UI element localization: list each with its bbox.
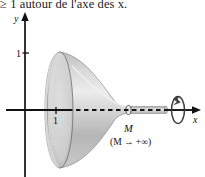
point-label-m: M — [124, 123, 133, 134]
y-axis-tick-label-1: 1 — [16, 48, 21, 59]
figure-canvas — [0, 0, 205, 177]
figure-gabriels-horn: ≥ 1 autour de l'axe des x. — [0, 0, 205, 177]
x-axis-arrowhead — [192, 106, 201, 114]
y-axis-label: y — [14, 13, 18, 24]
x-axis-label: x — [193, 114, 197, 125]
y-axis-arrowhead — [21, 12, 28, 21]
x-axis-tick-label-1: 1 — [53, 115, 58, 126]
limit-annotation-m: (M → +∞) — [110, 137, 151, 147]
